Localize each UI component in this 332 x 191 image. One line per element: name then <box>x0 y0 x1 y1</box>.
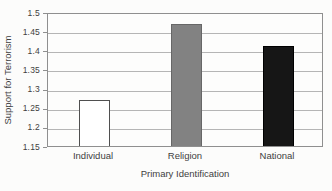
x-tick-label-individual: Individual <box>47 150 139 162</box>
x-tick-labels: IndividualReligionNational <box>0 150 332 162</box>
y-ticks-layer <box>0 0 47 191</box>
bar-religion <box>171 24 202 147</box>
bar-national <box>263 46 294 146</box>
bar-individual <box>79 100 110 146</box>
bars-layer <box>48 14 322 146</box>
x-tick-label-religion: Religion <box>139 150 231 162</box>
plot-area <box>47 13 323 147</box>
x-axis-title: Primary Identification <box>47 168 323 179</box>
bar-chart-figure: Support for Terrorism 1.151.21.251.31.35… <box>0 0 332 191</box>
y-tick-mark <box>43 147 47 148</box>
x-tick-label-national: National <box>231 150 323 162</box>
